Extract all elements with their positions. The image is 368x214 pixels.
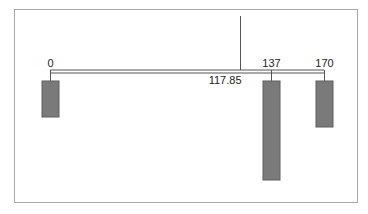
weight-bar <box>263 81 280 180</box>
weight-label-0: 0 <box>47 58 53 69</box>
weight-label-137: 137 <box>262 58 280 69</box>
weight-label-170: 170 <box>315 58 333 69</box>
weight-bar <box>316 81 333 127</box>
balance-diagram <box>0 0 368 214</box>
weight-bar <box>42 81 59 117</box>
pivot-label: 117.85 <box>209 75 242 86</box>
